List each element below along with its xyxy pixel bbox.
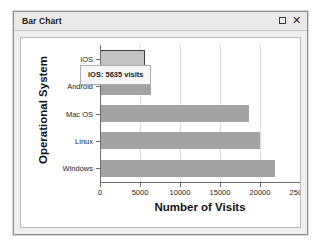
y-tick [96, 86, 100, 87]
x-tick [180, 183, 181, 187]
x-tick [220, 183, 221, 187]
bar-windows[interactable] [100, 160, 275, 177]
y-tick-label: Mac OS [66, 109, 93, 118]
close-icon: ✕ [292, 15, 301, 26]
x-axis-line [100, 182, 300, 183]
y-tick-label: iOS [80, 54, 93, 63]
maximize-icon [279, 17, 286, 24]
bar-mac-os[interactable] [100, 105, 249, 122]
y-tick [96, 114, 100, 115]
x-tick [100, 183, 101, 187]
y-tick-label: Windows [63, 164, 93, 173]
screenshot-root: Bar Chart ✕ Operational System iOSAndroi… [0, 0, 323, 249]
x-tick-label: 10000 [170, 188, 191, 197]
x-axis-title: Number of Visits [100, 201, 300, 213]
y-tick [96, 59, 100, 60]
window-titlebar[interactable]: Bar Chart ✕ [14, 12, 307, 31]
gridline [300, 45, 301, 182]
x-tick-label: 20000 [250, 188, 271, 197]
x-tick-label: 5000 [132, 188, 149, 197]
x-tick [140, 183, 141, 187]
window-controls: ✕ [277, 15, 302, 26]
bar-linux[interactable] [100, 132, 260, 149]
x-tick [260, 183, 261, 187]
y-tick-label: Linux [75, 136, 93, 145]
x-tick-label: 25000 [290, 188, 301, 197]
bar-tooltip: iOS: 5635 visits [80, 65, 151, 85]
y-tick [96, 141, 100, 142]
chart-panel[interactable]: Operational System iOSAndroidMac OSLinux… [20, 37, 301, 228]
x-tick [300, 183, 301, 187]
maximize-button[interactable] [277, 15, 288, 26]
y-tick [96, 168, 100, 169]
x-tick-label: 0 [98, 188, 102, 197]
bar-chart-window: Bar Chart ✕ Operational System iOSAndroi… [13, 11, 308, 235]
close-button[interactable]: ✕ [291, 15, 302, 26]
window-title: Bar Chart [22, 16, 62, 26]
x-tick-label: 15000 [210, 188, 231, 197]
